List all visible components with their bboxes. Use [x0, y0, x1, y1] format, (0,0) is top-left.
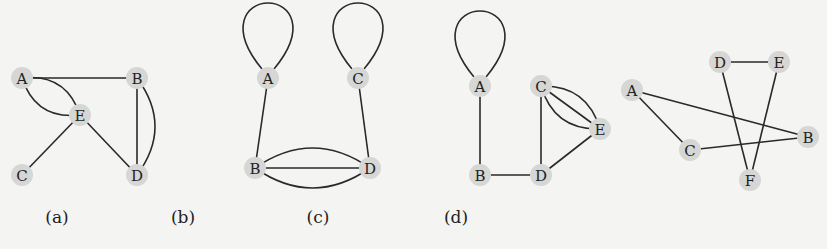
- node-a-A: A: [11, 67, 33, 89]
- node-label: D: [364, 160, 376, 178]
- edge-d-A-C: [632, 90, 690, 150]
- node-d-A: A: [621, 79, 643, 101]
- node-c-D: D: [530, 164, 552, 186]
- caption-b: (b): [171, 207, 195, 227]
- edge-d-C-B: [690, 137, 808, 150]
- caption-a: (a): [45, 207, 68, 227]
- node-label: A: [16, 70, 28, 88]
- node-a-B: B: [126, 67, 148, 89]
- node-label: E: [75, 107, 86, 125]
- node-label: A: [262, 70, 274, 88]
- node-label: D: [714, 54, 726, 72]
- edge-a-B-D: [137, 78, 155, 175]
- node-b-C: C: [347, 67, 369, 89]
- edge-c-D-E: [541, 129, 600, 175]
- node-c-E: E: [589, 118, 611, 140]
- edge-c-A-A: [455, 11, 505, 77]
- node-d-C: C: [679, 139, 701, 161]
- node-label: B: [131, 70, 142, 88]
- edge-b-C-D: [358, 78, 370, 168]
- caption-d: (d): [444, 207, 468, 227]
- edge-a-E-D: [80, 115, 137, 175]
- node-label: E: [595, 121, 606, 139]
- node-label: C: [352, 70, 363, 88]
- node-label: E: [774, 54, 785, 72]
- node-a-E: E: [69, 104, 91, 126]
- nodes-layer: ABECDACBDACEBDDEACBF: [11, 51, 819, 191]
- node-label: A: [474, 78, 486, 96]
- node-d-D: D: [709, 51, 731, 73]
- edge-b-A-B: [255, 78, 268, 168]
- edge-b-A-A: [243, 3, 293, 69]
- node-a-D: D: [126, 164, 148, 186]
- node-label: C: [16, 167, 27, 185]
- edge-b-C-C: [333, 3, 383, 69]
- edge-b-B-D: [255, 148, 370, 168]
- node-a-C: C: [11, 164, 33, 186]
- node-label: C: [535, 78, 546, 96]
- node-d-F: F: [739, 169, 761, 191]
- node-label: B: [802, 129, 813, 147]
- edge-a-E-C: [22, 115, 80, 175]
- node-label: A: [626, 82, 638, 100]
- graph-figure: ABECDACBDACEBDDEACBF (a)(b)(c)(d): [0, 0, 827, 249]
- node-b-A: A: [257, 67, 279, 89]
- node-label: B: [249, 160, 260, 178]
- node-label: C: [684, 142, 695, 160]
- captions-layer: (a)(b)(c)(d): [45, 207, 468, 227]
- node-c-B: B: [469, 164, 491, 186]
- node-label: D: [131, 167, 143, 185]
- edge-d-E-F: [750, 62, 779, 180]
- node-c-A: A: [469, 75, 491, 97]
- node-b-D: D: [359, 157, 381, 179]
- edge-d-A-B: [632, 90, 808, 137]
- caption-c: (c): [307, 207, 330, 227]
- node-label: B: [474, 167, 485, 185]
- node-label: F: [745, 172, 755, 190]
- node-b-B: B: [244, 157, 266, 179]
- node-d-E: E: [768, 51, 790, 73]
- node-label: D: [535, 167, 547, 185]
- node-c-C: C: [530, 75, 552, 97]
- edge-b-B-D: [255, 168, 370, 188]
- node-d-B: B: [797, 126, 819, 148]
